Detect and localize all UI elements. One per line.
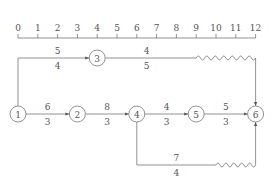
- free-float-wave: [216, 122, 256, 167]
- axis-tick-label: 2: [55, 23, 61, 33]
- time-axis: 0123456789101112: [15, 23, 261, 38]
- axis-tick-label: 6: [134, 23, 140, 33]
- event-node: 3: [89, 50, 105, 66]
- event-node: 6: [248, 106, 264, 122]
- axis-tick-label: 4: [94, 23, 100, 33]
- axis-tick-label: 12: [250, 23, 261, 33]
- activity-name: 5: [223, 102, 229, 112]
- free-float-wave: [196, 56, 255, 106]
- axis-tick-label: 9: [193, 23, 199, 33]
- activity-duration: 4: [174, 168, 180, 178]
- time-scaled-network-diagram: 0123456789101112 54456383435374 123456: [0, 0, 271, 186]
- axis-tick-label: 5: [114, 23, 120, 33]
- activity-duration: 5: [144, 61, 150, 71]
- activity-duration: 4: [55, 61, 61, 71]
- node-number: 6: [253, 110, 259, 120]
- event-node: 2: [69, 106, 85, 122]
- axis-tick-label: 0: [15, 23, 21, 33]
- activity-name: 6: [45, 102, 51, 112]
- axis-tick-label: 8: [174, 23, 180, 33]
- activity-name: 4: [144, 46, 150, 56]
- activity-name: 5: [55, 46, 61, 56]
- node-number: 1: [15, 110, 21, 120]
- activity-name: 4: [164, 102, 170, 112]
- activity-arrow: [18, 58, 89, 106]
- event-node: 1: [10, 106, 26, 122]
- node-number: 4: [134, 110, 140, 120]
- activity-duration: 3: [164, 117, 170, 127]
- axis-tick-label: 7: [154, 23, 160, 33]
- activity-duration: 3: [45, 117, 51, 127]
- node-number: 5: [193, 110, 199, 120]
- event-node: 5: [188, 106, 204, 122]
- node-number: 3: [94, 54, 100, 64]
- axis-tick-label: 11: [230, 23, 241, 33]
- axis-tick-label: 10: [210, 23, 222, 33]
- activity-name: 8: [104, 102, 110, 112]
- event-node: 4: [129, 106, 145, 122]
- activity-duration: 3: [104, 117, 110, 127]
- activity-duration: 3: [223, 117, 229, 127]
- activity-name: 7: [174, 153, 180, 163]
- axis-tick-label: 1: [35, 23, 41, 33]
- node-number: 2: [75, 110, 81, 120]
- axis-tick-label: 3: [75, 23, 81, 33]
